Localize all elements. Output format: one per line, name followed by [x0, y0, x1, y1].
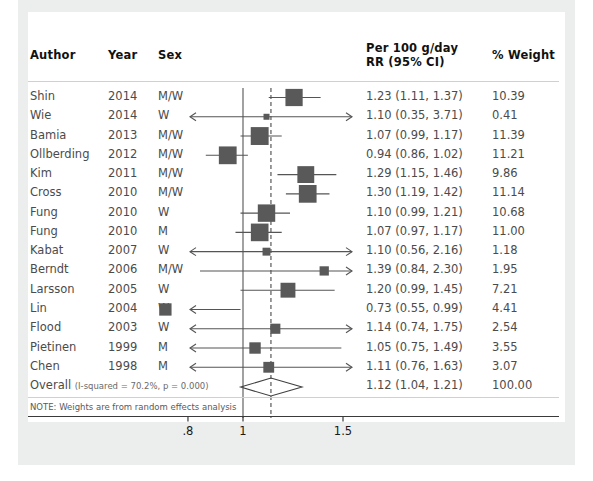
- study-sex: W: [158, 301, 169, 315]
- column-header-effect-line2: RR (95% CI): [366, 55, 458, 69]
- study-effect: 1.23 (1.11, 1.37): [366, 89, 463, 103]
- study-weight: 11.39: [492, 128, 525, 142]
- study-year: 2010: [108, 224, 137, 238]
- study-weight: 1.95: [492, 262, 518, 276]
- study-author: Larsson: [30, 282, 75, 296]
- study-weight: 10.68: [492, 205, 525, 219]
- column-header-weight: % Weight: [492, 48, 555, 62]
- study-author: Wie: [30, 108, 51, 122]
- study-weight: 9.86: [492, 166, 518, 180]
- study-weight: 7.21: [492, 282, 518, 296]
- study-weight: 11.21: [492, 147, 525, 161]
- study-effect: 1.10 (0.56, 2.16): [366, 243, 463, 257]
- study-effect: 1.30 (1.19, 1.42): [366, 185, 463, 199]
- study-author: Ollberding: [30, 147, 89, 161]
- column-header-year: Year: [108, 48, 137, 62]
- study-year: 2012: [108, 147, 137, 161]
- study-author: Shin: [30, 89, 55, 103]
- note-text: NOTE: Weights are from random effects an…: [30, 402, 236, 412]
- study-author: Fung: [30, 205, 58, 219]
- study-weight: 3.55: [492, 340, 518, 354]
- study-year: 2013: [108, 128, 137, 142]
- study-effect: 1.10 (0.99, 1.21): [366, 205, 463, 219]
- study-sex: M/W: [158, 185, 183, 199]
- column-header-sex: Sex: [158, 48, 182, 62]
- overall-label: Overall (I-squared = 70.2%, p = 0.000): [30, 378, 209, 392]
- study-year: 2014: [108, 108, 137, 122]
- study-author: Pietinen: [30, 340, 76, 354]
- study-effect: 1.07 (0.97, 1.17): [366, 224, 463, 238]
- study-weight: 3.07: [492, 359, 518, 373]
- header-divider: [28, 81, 559, 82]
- study-sex: M/W: [158, 128, 183, 142]
- study-sex: M: [158, 340, 168, 354]
- study-effect: 1.11 (0.76, 1.63): [366, 359, 463, 373]
- study-effect: 1.07 (0.99, 1.17): [366, 128, 463, 142]
- study-author: Berndt: [30, 262, 69, 276]
- x-tick-.8: .8: [182, 424, 193, 438]
- overall-effect: 1.12 (1.04, 1.21): [366, 378, 463, 392]
- overall-weight: 100.00: [492, 378, 532, 392]
- study-year: 2010: [108, 185, 137, 199]
- study-weight: 4.41: [492, 301, 518, 315]
- note-divider: [28, 397, 559, 398]
- study-effect: 1.10 (0.35, 3.71): [366, 108, 463, 122]
- study-sex: M: [158, 224, 168, 238]
- heterogeneity-stats: (I-squared = 70.2%, p = 0.000): [75, 381, 209, 391]
- x-tick-1: 1: [239, 424, 246, 438]
- study-year: 1999: [108, 340, 137, 354]
- study-weight: 10.39: [492, 89, 525, 103]
- study-sex: W: [158, 243, 169, 257]
- study-effect: 1.05 (0.75, 1.49): [366, 340, 463, 354]
- study-sex: W: [158, 282, 169, 296]
- study-weight: 11.14: [492, 185, 525, 199]
- study-year: 2005: [108, 282, 137, 296]
- column-header-author: Author: [30, 48, 76, 62]
- study-sex: W: [158, 108, 169, 122]
- column-header-effect-line1: Per 100 g/day: [366, 41, 458, 55]
- study-effect: 1.20 (0.99, 1.45): [366, 282, 463, 296]
- study-sex: W: [158, 320, 169, 334]
- study-year: 2014: [108, 89, 137, 103]
- study-year: 2003: [108, 320, 137, 334]
- x-tick-1.5: 1.5: [334, 424, 352, 438]
- study-author: Kim: [30, 166, 52, 180]
- study-year: 2007: [108, 243, 137, 257]
- study-year: 2011: [108, 166, 137, 180]
- study-effect: 1.14 (0.74, 1.75): [366, 320, 463, 334]
- study-sex: M/W: [158, 262, 183, 276]
- study-sex: M/W: [158, 147, 183, 161]
- study-author: Flood: [30, 320, 61, 334]
- study-author: Kabat: [30, 243, 63, 257]
- study-year: 2004: [108, 301, 137, 315]
- study-sex: M/W: [158, 166, 183, 180]
- study-sex: M: [158, 359, 168, 373]
- study-author: Lin: [30, 301, 47, 315]
- study-author: Bamia: [30, 128, 66, 142]
- study-effect: 1.29 (1.15, 1.46): [366, 166, 463, 180]
- study-year: 2010: [108, 205, 137, 219]
- study-effect: 0.73 (0.55, 0.99): [366, 301, 463, 315]
- study-sex: W: [158, 205, 169, 219]
- study-weight: 0.41: [492, 108, 518, 122]
- study-author: Chen: [30, 359, 60, 373]
- study-author: Cross: [30, 185, 62, 199]
- study-year: 2006: [108, 262, 137, 276]
- study-effect: 0.94 (0.86, 1.02): [366, 147, 463, 161]
- study-year: 1998: [108, 359, 137, 373]
- overall-title: Overall: [30, 378, 75, 392]
- study-weight: 2.54: [492, 320, 518, 334]
- column-header-effect: Per 100 g/day RR (95% CI): [366, 41, 458, 69]
- study-effect: 1.39 (0.84, 2.30): [366, 262, 463, 276]
- study-weight: 1.18: [492, 243, 518, 257]
- study-author: Fung: [30, 224, 58, 238]
- study-sex: M/W: [158, 89, 183, 103]
- study-weight: 11.00: [492, 224, 525, 238]
